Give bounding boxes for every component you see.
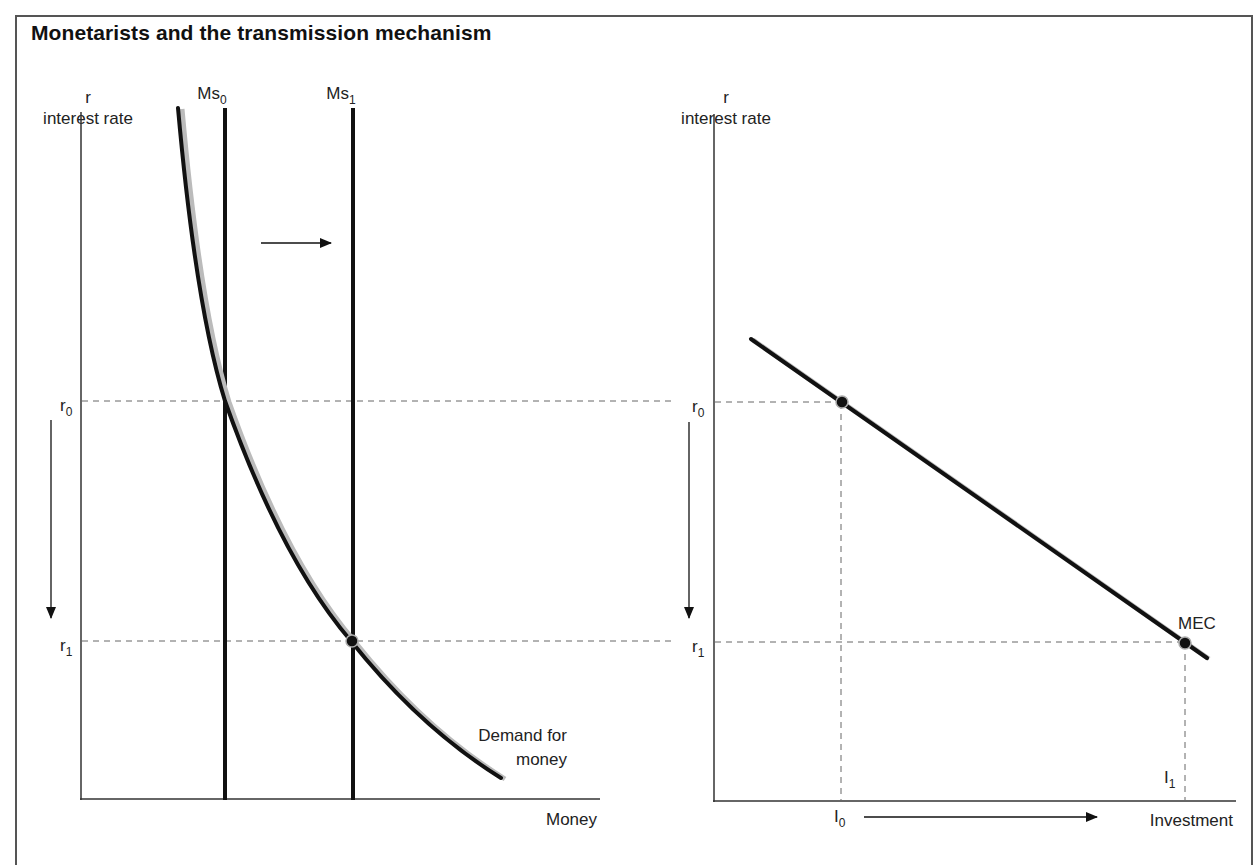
point-r1-i1 [1179,637,1191,649]
left-x-axis-label: Money [546,810,598,829]
i0-label: I0 [834,807,846,830]
right-x-axis-label: Investment [1150,811,1233,830]
demand-label-line2: money [516,750,568,769]
demand-label-line1: Demand for [478,726,567,745]
ms1-label: Ms1 [326,84,356,107]
demand-curve-shadow [182,109,505,779]
mec-line [751,339,1207,658]
right-r0-label: r0 [692,397,705,420]
investment-panel: r interest rate Investment r0 r1 MEC I0 … [681,88,1236,830]
i1-label: I1 [1164,768,1176,791]
left-r1-label: r1 [60,636,73,659]
mec-label: MEC [1178,614,1216,633]
left-y-axis-label: interest rate [43,109,133,128]
right-r1-label: r1 [692,637,705,660]
left-y-axis-symbol: r [85,88,91,107]
point-r0-i0 [836,396,848,408]
right-y-axis-label: interest rate [681,109,771,128]
ms0-label: Ms0 [197,84,227,107]
left-r0-label: r0 [60,396,73,419]
right-y-axis-symbol: r [723,88,729,107]
money-market-panel: r interest rate Money r0 r1 Ms0 Ms1 Dema… [43,84,673,829]
equilibrium-point-ms1-r1 [346,635,358,647]
